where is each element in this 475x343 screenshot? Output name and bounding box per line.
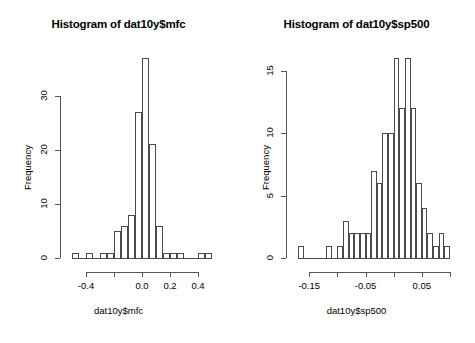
x-axis-tick	[366, 272, 367, 277]
y-axis-line	[60, 96, 61, 258]
histogram-bar	[114, 231, 121, 258]
y-axis-line	[286, 71, 287, 259]
histogram-bar	[121, 226, 128, 258]
y-axis-tick	[281, 258, 286, 259]
y-axis-tick-label: 30	[38, 86, 49, 104]
histogram-bar	[135, 112, 142, 258]
y-axis-tick-label: 0	[38, 249, 49, 267]
x-axis-tick	[394, 272, 395, 277]
x-axis-tick-label: 0.4	[174, 280, 222, 291]
y-axis-tick-label: 10	[38, 194, 49, 212]
x-axis-label-sp500: dat10y$sp500	[238, 305, 475, 316]
panel-title-sp500: Histogram of dat10y$sp500	[238, 18, 475, 30]
x-axis-tick	[450, 272, 451, 277]
x-axis-tick	[198, 272, 199, 277]
x-axis-tick-label: 0.05	[398, 280, 446, 291]
y-axis-tick-label: 20	[38, 140, 49, 158]
plot-baseline	[298, 258, 450, 259]
x-axis-tick-label: -0.15	[285, 280, 333, 291]
y-axis-tick	[281, 196, 286, 197]
x-axis-tick	[337, 272, 338, 277]
x-axis-tick	[309, 272, 310, 277]
y-axis-label-mfc: Frequency	[22, 145, 33, 190]
y-axis-tick	[55, 96, 60, 97]
histogram-bar	[326, 246, 332, 259]
y-axis-label-sp500: Frequency	[260, 145, 271, 190]
y-axis-tick-label: 5	[264, 186, 275, 204]
panel-title-mfc: Histogram of dat10y$mfc	[0, 18, 237, 30]
x-axis-line	[309, 272, 450, 273]
histogram-bar	[149, 144, 156, 258]
y-axis-tick	[55, 150, 60, 151]
histogram-panel-sp500: Histogram of dat10y$sp500 Frequency dat1…	[238, 0, 475, 343]
x-axis-tick	[170, 272, 171, 277]
histogram-bar	[156, 226, 163, 258]
x-axis-tick	[114, 272, 115, 277]
x-axis-tick	[422, 272, 423, 277]
y-axis-tick-label: 0	[264, 249, 275, 267]
x-axis-label-mfc: dat10y$mfc	[0, 305, 237, 316]
y-axis-tick	[55, 258, 60, 259]
histogram-bar	[142, 58, 149, 258]
x-axis-tick	[86, 272, 87, 277]
figure-canvas: Histogram of dat10y$mfc Frequency dat10y…	[0, 0, 475, 343]
histogram-panel-mfc: Histogram of dat10y$mfc Frequency dat10y…	[0, 0, 237, 343]
y-axis-tick	[55, 204, 60, 205]
histogram-bar	[128, 215, 135, 258]
y-axis-tick	[281, 133, 286, 134]
histogram-bar	[298, 246, 304, 259]
x-axis-tick-label: -0.4	[62, 280, 110, 291]
y-axis-tick-label: 10	[264, 124, 275, 142]
y-axis-tick	[281, 71, 286, 72]
y-axis-tick-label: 15	[264, 61, 275, 79]
plot-baseline	[72, 258, 212, 259]
x-axis-tick	[142, 272, 143, 277]
x-axis-tick-label: -0.05	[342, 280, 390, 291]
histogram-bar	[444, 246, 450, 259]
